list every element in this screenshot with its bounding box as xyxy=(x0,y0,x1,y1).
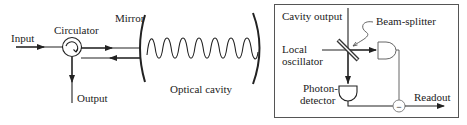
photodetector-right-icon xyxy=(378,42,396,59)
oscillator-label: oscillator xyxy=(282,55,323,67)
photodetector-bottom-icon xyxy=(339,86,357,101)
right-detector-wire xyxy=(396,50,399,100)
mirror-label: Mirror xyxy=(115,12,145,24)
mirror-left-icon xyxy=(140,15,145,82)
standing-wave-icon xyxy=(147,38,258,59)
mirror-right-icon xyxy=(253,13,260,84)
left-panel: Input Circulator Output Mirror Optical c… xyxy=(11,12,260,104)
cavity-label: Optical cavity xyxy=(170,83,233,95)
cavity-readout-diagram: Input Circulator Output Mirror Optical c… xyxy=(0,0,467,125)
beam-splitter-label: Beam-splitter xyxy=(376,15,436,27)
photon-label: Photon- xyxy=(303,82,338,94)
output-label: Output xyxy=(77,92,108,104)
subtract-sign: − xyxy=(396,102,401,112)
local-label: Local xyxy=(282,43,307,55)
bottom-detector-wire xyxy=(348,101,393,106)
readout-label: Readout xyxy=(414,91,451,103)
input-label: Input xyxy=(11,32,34,44)
circulator-icon xyxy=(63,38,82,57)
cavity-output-label: Cavity output xyxy=(282,10,342,22)
right-panel: Cavity output Beam-splitter Local oscill… xyxy=(275,5,459,118)
circulator-label: Circulator xyxy=(54,24,99,36)
detector-label: detector xyxy=(300,94,336,106)
